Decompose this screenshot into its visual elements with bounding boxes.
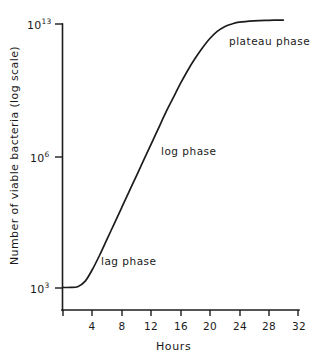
y-tick-label-10e6: 106 xyxy=(30,150,49,165)
x-tick-label-12: 12 xyxy=(140,320,162,332)
x-tick-label-8: 8 xyxy=(111,320,133,332)
growth-curve-figure: 1013 106 103 4 8 12 16 20 24 28 32 Hours… xyxy=(0,0,319,363)
x-tick-label-24: 24 xyxy=(229,320,251,332)
y-tick-base-6: 10 xyxy=(30,152,45,165)
annotation-lag-phase: lag phase xyxy=(101,255,157,267)
x-tick-label-4: 4 xyxy=(81,320,103,332)
x-tick-label-20: 20 xyxy=(199,320,221,332)
y-tick-base-13: 10 xyxy=(27,19,42,32)
y-axis-title: Number of viable bacteria (log scale) xyxy=(9,45,22,264)
x-tick-label-28: 28 xyxy=(258,320,280,332)
x-tick-label-32: 32 xyxy=(288,320,310,332)
x-tick-label-16: 16 xyxy=(170,320,192,332)
y-tick-exponent-6: 6 xyxy=(45,150,50,159)
y-tick-label-10e3: 103 xyxy=(30,281,49,296)
annotation-plateau-phase: plateau phase xyxy=(229,35,310,47)
y-tick-exponent-3: 3 xyxy=(45,281,50,290)
y-axis-title-container: Number of viable bacteria (log scale) xyxy=(2,0,28,310)
y-tick-base-3: 10 xyxy=(30,283,45,296)
y-tick-exponent-13: 13 xyxy=(42,17,52,26)
y-tick-label-10e13: 1013 xyxy=(27,17,51,32)
x-axis-title: Hours xyxy=(156,340,191,353)
annotation-log-phase: log phase xyxy=(161,145,217,157)
chart-canvas xyxy=(0,0,319,363)
